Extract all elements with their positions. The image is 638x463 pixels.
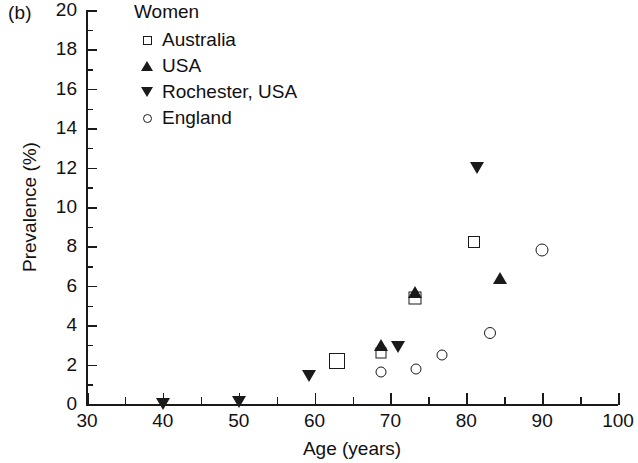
data-point [470, 162, 484, 174]
x-tick-label: 80 [456, 410, 477, 432]
x-tick [466, 393, 468, 405]
y-tick-minor [86, 187, 93, 189]
x-tick [390, 393, 392, 405]
data-point [329, 353, 345, 369]
x-tick-label: 100 [602, 410, 634, 432]
y-tick-label: 16 [56, 78, 77, 100]
y-tick: 4 [86, 325, 97, 327]
legend-marker-icon [132, 61, 162, 71]
y-tick: 2 [86, 365, 97, 367]
x-tick-label: 30 [76, 410, 97, 432]
y-tick-minor [86, 384, 93, 386]
y-tick-minor [86, 266, 93, 268]
data-point [156, 398, 170, 410]
data-point [374, 339, 388, 351]
x-tick-label: 70 [380, 410, 401, 432]
y-tick: 6 [86, 286, 97, 288]
y-tick-label: 14 [56, 117, 77, 139]
x-tick [87, 393, 89, 405]
x-tick-label: 50 [228, 410, 249, 432]
y-tick-label: 20 [56, 0, 77, 21]
y-tick: 20 [86, 10, 97, 12]
x-tick-minor [580, 397, 582, 405]
data-point [376, 367, 387, 378]
legend-item-england: England [132, 105, 382, 131]
data-point [391, 341, 405, 353]
y-tick: 18 [86, 49, 97, 51]
x-tick-label: 90 [532, 410, 553, 432]
legend-label: USA [162, 55, 201, 77]
y-axis-title: Prevalence (%) [19, 142, 41, 272]
legend-label: Rochester, USA [162, 81, 297, 103]
y-tick: 8 [86, 246, 97, 248]
y-tick-minor [86, 69, 93, 71]
data-point [468, 236, 480, 248]
x-tick-minor [277, 397, 279, 405]
x-tick-minor [201, 397, 203, 405]
y-tick-minor [86, 345, 93, 347]
data-point [411, 363, 422, 374]
y-tick-minor [86, 109, 93, 111]
data-point [408, 286, 422, 298]
legend-marker-icon [132, 114, 162, 123]
y-tick: 12 [86, 168, 97, 170]
x-tick-minor [504, 397, 506, 405]
figure-panel: (b) 02468101214161820 30405060708090100 … [0, 0, 638, 463]
legend-label: Australia [162, 29, 236, 51]
y-tick-minor [86, 30, 93, 32]
triangle-down-icon [141, 87, 153, 97]
y-tick-label: 6 [66, 275, 77, 297]
x-tick-minor [125, 397, 127, 405]
y-tick-minor [86, 227, 93, 229]
x-tick-label: 60 [304, 410, 325, 432]
data-point [232, 396, 246, 408]
x-tick [315, 393, 317, 405]
data-point [437, 349, 448, 360]
legend-entries: AustraliaUSARochester, USAEngland [132, 27, 382, 131]
y-tick-label: 10 [56, 196, 77, 218]
y-tick-label: 4 [66, 314, 77, 336]
y-tick: 14 [86, 128, 97, 130]
y-tick-minor [86, 306, 93, 308]
legend-marker-icon [132, 87, 162, 97]
x-axis-title: Age (years) [303, 438, 401, 460]
legend-label: England [162, 107, 232, 129]
x-tick-minor [428, 397, 430, 405]
triangle-up-icon [141, 61, 153, 71]
y-tick: 10 [86, 207, 97, 209]
data-point [484, 327, 496, 339]
y-tick-label: 0 [66, 393, 77, 415]
x-tick [618, 393, 620, 405]
circle-open-icon [143, 114, 152, 123]
y-tick-label: 8 [66, 235, 77, 257]
square-open-icon [143, 36, 152, 45]
x-tick-label: 40 [152, 410, 173, 432]
data-point [536, 244, 549, 257]
panel-label: (b) [8, 2, 32, 24]
y-tick-minor [86, 148, 93, 150]
data-point [302, 370, 316, 382]
legend-title: Women [132, 1, 382, 23]
legend-item-usa: USA [132, 53, 382, 79]
y-tick-label: 2 [66, 354, 77, 376]
legend-item-rochester-usa: Rochester, USA [132, 79, 382, 105]
legend: Women AustraliaUSARochester, USAEngland [132, 1, 382, 131]
y-tick: 16 [86, 89, 97, 91]
legend-marker-icon [132, 36, 162, 45]
y-tick-label: 18 [56, 38, 77, 60]
x-tick [542, 393, 544, 405]
x-tick-minor [353, 397, 355, 405]
y-tick-label: 12 [56, 157, 77, 179]
data-point [493, 272, 507, 284]
legend-item-australia: Australia [132, 27, 382, 53]
